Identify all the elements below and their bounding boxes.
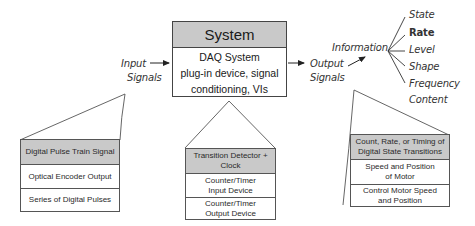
system-line: plug-in device, signal: [173, 65, 286, 81]
input-callout-pointer: [20, 94, 125, 140]
information-fan: [388, 17, 405, 83]
callout-row-header: Digital Pulse Train Signal: [21, 140, 119, 164]
input-callout-box: Digital Pulse Train Signal Optical Encod…: [20, 139, 120, 212]
callout-row-header: Transition Detector + Clock: [186, 149, 275, 173]
output-signals-label: Output Signals: [310, 57, 345, 85]
output-label-line: Signals: [310, 71, 345, 85]
system-block: System DAQ System plug-in device, signal…: [172, 21, 287, 97]
callout-row: Counter/Timer Output Device: [186, 197, 275, 219]
output-callout-box: Count, Rate, or Timing of Digital State …: [350, 134, 450, 207]
info-item-state: State: [409, 9, 434, 20]
callout-row: Counter/Timer Input Device: [186, 173, 275, 197]
info-item-frequency: Frequency: [409, 78, 460, 89]
information-label: Information: [332, 42, 388, 53]
info-item-level: Level: [409, 44, 435, 55]
output-label-line: Output: [310, 57, 345, 71]
info-item-content: Content: [409, 94, 447, 105]
input-label-line: Input: [121, 57, 162, 71]
callout-row: Series of Digital Pulses: [21, 188, 119, 211]
system-line: conditioning, VIs: [173, 81, 286, 97]
callout-row: Control Motor Speed and Position: [351, 184, 449, 206]
callout-row: Optical Encoder Output: [21, 164, 119, 188]
information-arrow: [348, 57, 365, 66]
system-line: DAQ System: [173, 49, 286, 65]
system-callout-box: Transition Detector + Clock Counter/Time…: [185, 148, 276, 220]
info-item-rate: Rate: [409, 27, 434, 38]
input-label-line: Signals: [127, 71, 162, 85]
system-callout-pointer: [185, 101, 275, 148]
input-signals-label: Input Signals: [121, 57, 162, 85]
callout-row: Speed and Position of Motor: [351, 159, 449, 184]
info-item-shape: Shape: [409, 61, 439, 72]
system-description: DAQ System plug-in device, signal condit…: [173, 48, 286, 97]
system-title: System: [173, 22, 286, 48]
callout-row-header: Count, Rate, or Timing of Digital State …: [351, 135, 449, 159]
